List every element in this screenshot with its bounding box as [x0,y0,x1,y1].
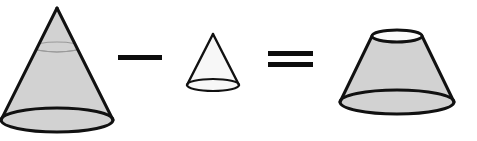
equals-operator [268,51,313,67]
equals-operator-bottom-bar [268,62,313,67]
minus-operator [118,55,162,60]
minus-operator-bar [118,55,162,60]
figure-canvas: Volume of a frustum: large cone minus sm… [0,0,477,141]
geometry-illustration: Volume of a frustum: large cone minus sm… [0,0,477,141]
small-cone-lateral-fill [187,34,239,85]
large-cone-lateral-fill [1,8,113,120]
equals-operator-top-bar [268,51,313,56]
small-cone [187,34,239,91]
large-cone [1,8,113,132]
frustum [340,30,454,114]
